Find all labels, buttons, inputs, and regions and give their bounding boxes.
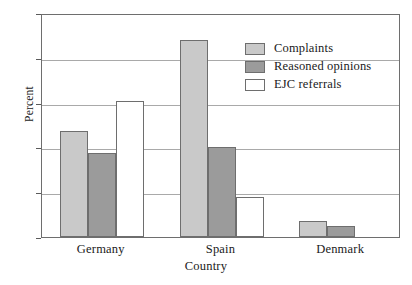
- bar-denmark-complaints: [299, 221, 327, 237]
- bar-spain-reasoned-opinions: [208, 147, 236, 237]
- x-tick-label-denmark: Denmark: [280, 242, 400, 257]
- legend-label: Complaints: [274, 42, 333, 55]
- chart-legend: ComplaintsReasoned opinionsEJC referrals: [245, 40, 371, 94]
- y-tick-mark: [36, 238, 41, 239]
- legend-label: Reasoned opinions: [274, 60, 371, 73]
- legend-item: Complaints: [245, 40, 371, 57]
- bar-germany-ejc-referrals: [116, 101, 144, 237]
- legend-item: EJC referrals: [245, 76, 371, 93]
- legend-swatch-icon: [245, 61, 265, 73]
- bar-germany-complaints: [60, 131, 88, 237]
- legend-swatch-icon: [245, 79, 265, 91]
- y-axis-title: Percent: [23, 69, 35, 139]
- bar-chart: Percent 0510152025 GermanySpainDenmark C…: [0, 0, 412, 285]
- bar-spain-complaints: [180, 40, 208, 237]
- x-tick-label-spain: Spain: [161, 242, 281, 257]
- x-axis-title: Country: [0, 259, 412, 274]
- legend-swatch-icon: [245, 43, 265, 55]
- bar-germany-reasoned-opinions: [88, 153, 116, 237]
- legend-label: EJC referrals: [274, 78, 342, 91]
- bar-spain-ejc-referrals: [236, 197, 264, 237]
- bar-denmark-reasoned-opinions: [327, 226, 355, 237]
- x-tick-label-germany: Germany: [41, 242, 161, 257]
- legend-item: Reasoned opinions: [245, 58, 371, 75]
